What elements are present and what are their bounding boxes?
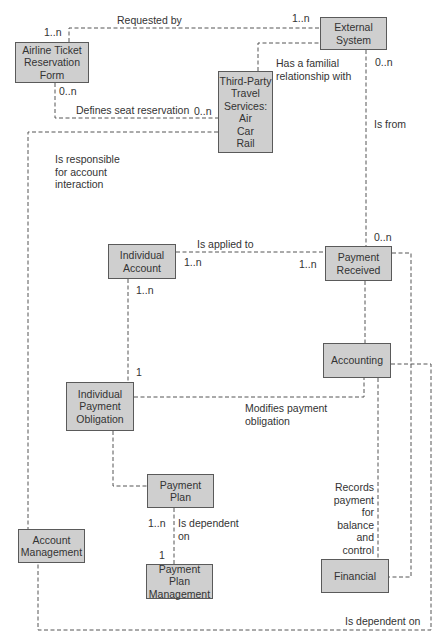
cardinality-account-obligation-to: 1 [136,366,142,379]
entity-payment-received: Payment Received [325,246,392,281]
cardinality-requested-by-from: 1..n [44,26,62,39]
cardinality-plan-management-to: 1 [159,549,165,562]
connector-requested-by [69,28,320,42]
cardinality-defines-seat-from: 0..n [59,85,77,98]
label-responsible-account-interaction: Is responsible for account interaction [55,153,120,191]
label-defines-seat-reservation: Defines seat reservation [76,104,189,117]
entity-individual-account: Individual Account [108,244,176,279]
cardinality-account-obligation-from: 1..n [136,284,154,297]
connector-responsible [28,132,218,529]
label-is-applied-to: Is applied to [197,238,254,251]
entity-account-management: Account Management [18,529,85,563]
connector-modifies [134,378,364,397]
label-is-dependent-on: Is dependent on [345,615,420,628]
label-modifies-payment-obligation: Modifies payment obligation [245,402,327,427]
connector-obligation-plan [113,431,147,486]
cardinality-applied-to-from: 1..n [184,256,202,269]
entity-financial: Financial [321,559,389,593]
label-familial-relationship: Has a familial relationship with [276,57,351,82]
cardinality-defines-seat-to: 0..n [194,105,212,118]
label-requested-by: Requested by [117,14,182,27]
entity-third-party-travel-services: Third-Party Travel Services: Air Car Rai… [218,71,273,153]
cardinality-requested-by-to: 1..n [292,12,310,25]
cardinality-plan-management-from: 1..n [148,517,166,530]
label-is-from: Is from [374,118,406,131]
entity-accounting: Accounting [323,343,391,378]
label-records-payment: Records payment for balance and control [330,481,374,556]
entity-individual-payment-obligation: Individual Payment Obligation [66,382,134,431]
entity-external-system: External System [320,17,387,50]
connector-received-financial [389,253,411,577]
cardinality-is-from-to: 0..n [374,231,392,244]
entity-payment-plan: Payment Plan [147,474,214,508]
cardinality-applied-to-to: 1..n [299,258,317,271]
entity-payment-plan-management: Payment Plan Management [146,564,213,599]
entity-airline-ticket-reservation-form: Airline Ticket Reservation Form [15,42,89,83]
cardinality-is-from-from: 0..n [375,56,393,69]
label-is-dependent-on-plan: Is dependent on [178,517,239,542]
